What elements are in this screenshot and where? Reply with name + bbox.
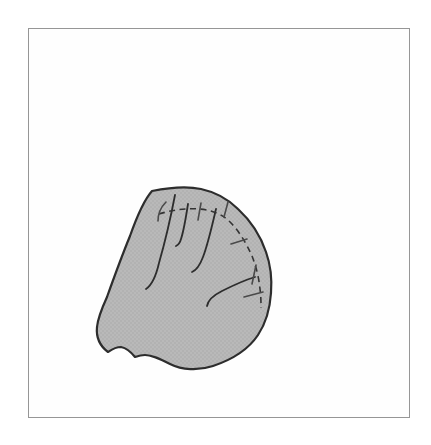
scanned-page — [0, 0, 431, 445]
figure-canvas — [0, 0, 431, 445]
